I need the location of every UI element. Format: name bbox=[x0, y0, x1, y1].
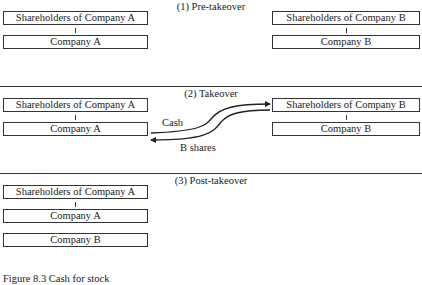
connector-line bbox=[75, 202, 76, 207]
label-b-shares: B shares bbox=[180, 142, 216, 154]
box-company-a-post: Company A bbox=[3, 209, 148, 223]
section-title-post-takeover: (3) Post-takeover bbox=[175, 175, 248, 187]
figure-caption: Figure 8.3 Cash for stock bbox=[3, 273, 109, 285]
box-shareholders-a-post: Shareholders of Company A bbox=[3, 185, 148, 199]
section-divider bbox=[0, 173, 422, 174]
label-cash: Cash bbox=[162, 117, 183, 129]
box-company-b-post: Company B bbox=[3, 233, 148, 247]
